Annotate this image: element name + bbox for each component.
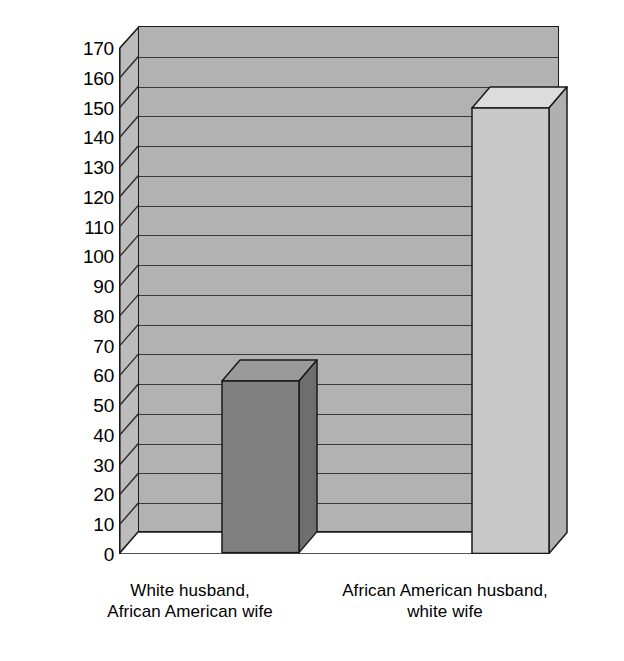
- plot-area: [119, 26, 559, 554]
- y-tick-label: 170: [52, 39, 114, 58]
- y-axis-tick-labels: 1701601501401301201101009080706050403020…: [52, 24, 114, 546]
- y-tick-label: 160: [52, 69, 114, 88]
- bar[interactable]: [471, 86, 568, 554]
- y-tick-label: 20: [52, 485, 114, 504]
- x-axis-category-labels: White husband,African American wife Afri…: [0, 580, 624, 640]
- y-tick-label: 0: [52, 545, 114, 564]
- plot-left-wall: [119, 26, 140, 554]
- y-tick-label: 100: [52, 247, 114, 266]
- y-tick-label: 60: [52, 366, 114, 385]
- y-tick-label: 120: [52, 188, 114, 207]
- y-tick-label: 30: [52, 456, 114, 475]
- category-label-line: white wife: [310, 601, 580, 622]
- bar[interactable]: [221, 359, 318, 554]
- category-label-line: African American wife: [85, 601, 295, 622]
- y-tick-label: 130: [52, 158, 114, 177]
- bar-side-face: [299, 360, 317, 553]
- y-tick-label: 10: [52, 515, 114, 534]
- y-tick-label: 50: [52, 396, 114, 415]
- gridline: [139, 57, 558, 58]
- y-tick-label: 150: [52, 99, 114, 118]
- y-tick-label: 140: [52, 128, 114, 147]
- bar-front-face: [222, 381, 299, 553]
- category-label-1: African American husband,white wife: [310, 580, 580, 622]
- bar-front-face: [472, 108, 549, 553]
- bar-side-face: [549, 87, 567, 553]
- category-label-0: White husband,African American wife: [85, 580, 295, 622]
- y-tick-label: 110: [52, 218, 114, 237]
- bar-shape: [471, 86, 568, 554]
- category-label-line: White husband,: [85, 580, 295, 601]
- bar-shape: [221, 359, 318, 554]
- y-tick-label: 40: [52, 426, 114, 445]
- y-tick-label: 70: [52, 337, 114, 356]
- bar-chart: Total in thousands 170160150140130120110…: [0, 0, 624, 661]
- y-tick-label: 80: [52, 307, 114, 326]
- category-label-line: African American husband,: [310, 580, 580, 601]
- y-tick-label: 90: [52, 277, 114, 296]
